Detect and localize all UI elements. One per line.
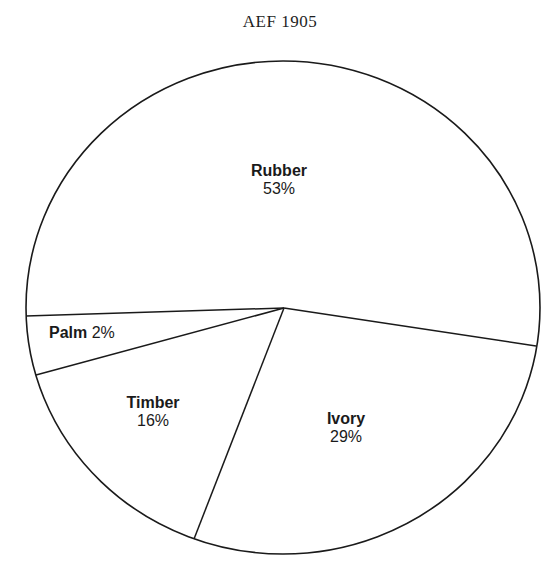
- slice-label-timber: Timber 16%: [126, 394, 179, 430]
- slice-percent: 53%: [251, 180, 307, 198]
- slice-label-rubber: Rubber 53%: [251, 162, 307, 198]
- slice-name: Palm: [49, 324, 87, 341]
- slice-label-ivory: Ivory 29%: [327, 410, 365, 446]
- pie-chart: [0, 0, 560, 573]
- slice-percent: 16%: [126, 412, 179, 430]
- slice-percent: 2%: [92, 324, 115, 341]
- slice-percent: 29%: [327, 428, 365, 446]
- slice-name: Ivory: [327, 410, 365, 428]
- slice-label-palm: Palm 2%: [49, 324, 115, 342]
- slice-name: Rubber: [251, 162, 307, 180]
- slice-name: Timber: [126, 394, 179, 412]
